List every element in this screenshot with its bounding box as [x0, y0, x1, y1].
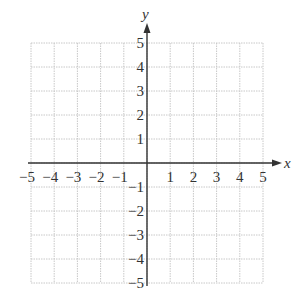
- y-tick-label: 1: [137, 131, 145, 147]
- x-tick-label: 4: [236, 169, 244, 185]
- y-tick-label: −5: [128, 275, 144, 291]
- y-tick-label: −4: [128, 251, 144, 267]
- y-tick-label: −1: [128, 179, 144, 195]
- y-tick-label: −2: [128, 203, 144, 219]
- y-tick-label: 5: [137, 35, 145, 51]
- x-tick-label: 1: [166, 169, 174, 185]
- x-tick-label: −5: [19, 169, 35, 185]
- y-tick-label: 3: [137, 83, 145, 99]
- x-tick-label: −1: [112, 169, 128, 185]
- x-axis-arrow-icon: [272, 160, 282, 167]
- y-axis-label: y: [140, 6, 149, 22]
- x-tick-label: 2: [190, 169, 198, 185]
- x-tick-label: 3: [213, 169, 221, 185]
- y-tick-label: 2: [137, 107, 145, 123]
- coordinate-plane: x y −5−4−3−2−112345 54321−1−2−3−4−5: [0, 0, 296, 296]
- x-tick-label: 5: [259, 169, 267, 185]
- x-tick-label: −4: [42, 169, 58, 185]
- y-axis-arrow-icon: [144, 23, 151, 33]
- x-tick-label: −3: [65, 169, 81, 185]
- x-tick-label: −2: [89, 169, 105, 185]
- y-tick-label: −3: [128, 227, 144, 243]
- y-tick-label: 4: [137, 59, 145, 75]
- x-axis-label: x: [283, 155, 291, 171]
